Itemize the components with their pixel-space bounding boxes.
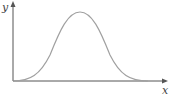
x-axis-arrow-icon <box>162 79 168 84</box>
y-axis-label: y <box>1 1 9 14</box>
curve-diagram: y x <box>0 0 171 97</box>
y-axis <box>11 1 16 81</box>
y-axis-arrow-icon <box>11 1 16 7</box>
bell-curve <box>13 12 148 81</box>
x-axis-label: x <box>162 84 169 97</box>
